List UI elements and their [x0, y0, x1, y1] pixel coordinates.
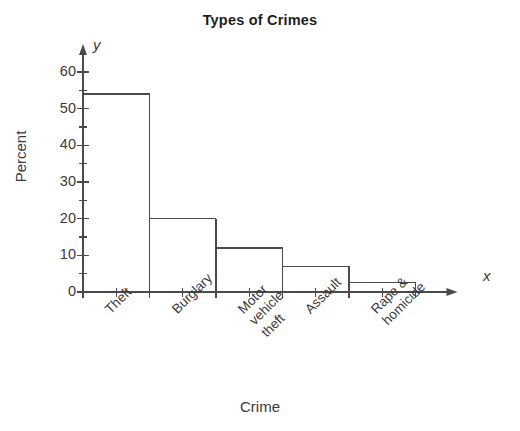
x-axis-title: Crime — [0, 398, 520, 415]
x-tick-label: Assault — [302, 275, 345, 318]
x-tick-label: Theft — [102, 284, 135, 317]
chart-figure: Types of Crimes 0102030405060 Percent y … — [0, 0, 520, 431]
x-tick-label: Motor vehicle theft — [235, 276, 300, 341]
x-tick-label: Rape & homicide — [368, 268, 429, 329]
x-tick-label: Burglary — [169, 270, 216, 317]
x-axis-category-labels: TheftBurglaryMotor vehicle theftAssaultR… — [0, 0, 520, 431]
